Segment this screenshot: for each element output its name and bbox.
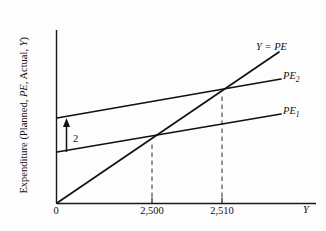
x-tick-label-origin: 0	[48, 206, 64, 217]
curve-label-pe2-subscript: 2	[296, 75, 300, 84]
y-axis-label: Expenditure (Planned, PE, Actual, Y)	[19, 15, 30, 215]
curve-label-pe1-subscript: 1	[296, 110, 300, 119]
expenditure-equilibrium-chart: Expenditure (Planned, PE, Actual, Y) 0 2…	[0, 0, 326, 231]
curve-label-pe2-base: PE	[283, 70, 296, 81]
curve-label-pe2: PE2	[283, 71, 300, 84]
curve-45-degree-line	[57, 52, 279, 203]
curve-label-pe1: PE1	[283, 106, 300, 119]
x-tick-label-2500: 2,500	[128, 206, 176, 217]
x-axis-label: Y	[303, 205, 309, 216]
y-axis-label-pe: PE	[18, 84, 29, 97]
shift-amount-label: 2	[73, 134, 78, 145]
chart-canvas	[0, 0, 326, 231]
curve-label-pe1-base: PE	[283, 105, 296, 116]
y-axis-label-mid: , Actual,	[18, 46, 29, 84]
curve-label-pe: PE	[274, 41, 287, 52]
y-axis-label-prefix: Expenditure (Planned,	[18, 97, 29, 194]
x-tick-label-2510: 2,510	[198, 206, 246, 217]
curve-label-equals: =	[262, 41, 274, 52]
curve-label-45-degree-line: Y = PE	[256, 42, 287, 53]
curve-pe1	[57, 114, 281, 152]
y-axis-label-suffix: )	[18, 37, 29, 41]
shift-arrow-head	[63, 118, 70, 127]
curve-pe2	[57, 79, 281, 118]
y-axis-label-y: Y	[18, 40, 29, 46]
